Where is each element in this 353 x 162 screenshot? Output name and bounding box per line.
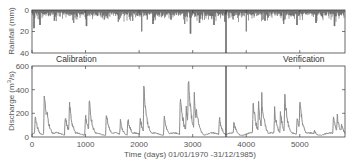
x-tick-5000: 5000 <box>291 140 309 149</box>
x-tick-1000: 1000 <box>77 140 95 149</box>
rain-tick-20: 20 <box>20 27 29 36</box>
q-tick-400: 400 <box>16 86 30 95</box>
q-tick-200: 200 <box>16 109 30 118</box>
x-tick-3000: 3000 <box>184 140 202 149</box>
discharge-y-label: Discharge (m3/s) <box>6 71 16 131</box>
rainfall-axes-box <box>32 10 345 53</box>
discharge-panel: 600 400 200 0 010002000300040005000 Disc… <box>6 62 345 149</box>
rainfall-panel: 0 20 40 Rainfall (mm) <box>7 6 345 58</box>
rainfall-bars <box>33 10 345 34</box>
rain-tick-40: 40 <box>20 49 29 58</box>
x-tick-2000: 2000 <box>130 140 148 149</box>
x-tick-0: 0 <box>30 140 35 149</box>
q-tick-600: 600 <box>16 62 30 71</box>
discharge-line <box>32 81 345 135</box>
rain-tick-0: 0 <box>25 6 30 15</box>
calibration-label: Calibration <box>56 54 97 64</box>
x-tick-4000: 4000 <box>237 140 255 149</box>
hydrograph-figure: 0 20 40 Rainfall (mm) Calibration Verifi… <box>0 0 353 162</box>
verification-label: Verification <box>283 54 325 64</box>
time-x-label: Time (days) 01/01/1970 -31/12/1985) <box>124 150 256 159</box>
rainfall-y-label: Rainfall (mm) <box>7 7 16 55</box>
